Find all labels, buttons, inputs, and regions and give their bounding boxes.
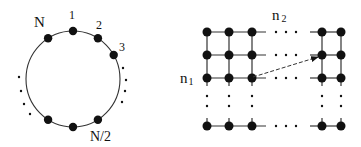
mesh-node (337, 28, 346, 37)
ellipsis-dot (125, 79, 127, 81)
ellipsis-dot (295, 125, 297, 127)
ellipsis-dot (23, 103, 25, 105)
ring-label-n: N (34, 14, 45, 30)
mesh-label-n2-base: n (272, 7, 280, 23)
ellipsis-dot (18, 76, 20, 78)
ellipsis-dot (295, 54, 297, 56)
ellipsis-dot (124, 90, 126, 92)
ring-label-n-half: N/2 (90, 129, 111, 144)
ring-circle (26, 31, 120, 127)
ring-label-1: 1 (69, 8, 75, 22)
mesh-node (248, 28, 257, 37)
ellipsis-dot (295, 31, 297, 33)
ellipsis-dot (206, 105, 208, 107)
ellipsis-dot (251, 105, 253, 107)
diagram-canvas: N 1 2 3 N/2 n2 n1 (0, 0, 361, 147)
ring-node (94, 34, 102, 42)
ellipsis-dot (285, 77, 287, 79)
mesh-label-n1: n1 (180, 70, 194, 87)
ring-node (69, 27, 77, 35)
mesh-node (318, 51, 327, 60)
mesh-node (248, 51, 257, 60)
ellipsis-dot (121, 101, 123, 103)
ring-node (44, 116, 52, 124)
mesh-label-n1-sub: 1 (189, 76, 194, 87)
mesh-label-n2: n2 (272, 7, 287, 24)
mesh-node (318, 74, 327, 83)
ring-node (94, 116, 102, 124)
ring-node (69, 123, 77, 131)
ring-label-2: 2 (96, 18, 102, 32)
mesh-node (203, 28, 212, 37)
ellipsis-dot (275, 77, 277, 79)
ellipsis-dot (340, 95, 342, 97)
mesh-node (225, 122, 234, 131)
ellipsis-dot (295, 77, 297, 79)
mesh-node (225, 28, 234, 37)
ellipsis-dot (340, 105, 342, 107)
ellipsis-dot (285, 125, 287, 127)
ring-node (110, 51, 118, 59)
mesh-node (337, 122, 346, 131)
ellipsis-dot (321, 105, 323, 107)
ellipsis-dot (29, 113, 31, 115)
mesh-node (203, 74, 212, 83)
mesh-node (318, 122, 327, 131)
mesh-node (337, 74, 346, 83)
ring-topology (18, 27, 127, 131)
mesh-node (203, 122, 212, 131)
dashed-arrow (253, 57, 318, 77)
ring-node (44, 34, 52, 42)
mesh-node (225, 51, 234, 60)
ellipsis-dot (285, 31, 287, 33)
mesh-label-n2-sub: 2 (282, 13, 287, 24)
ellipsis-dot (228, 95, 230, 97)
mesh-node (203, 51, 212, 60)
ellipsis-dot (122, 67, 124, 69)
ellipsis-dot (20, 90, 22, 92)
ellipsis-dot (285, 54, 287, 56)
mesh-node (337, 51, 346, 60)
ellipsis-dot (206, 95, 208, 97)
mesh-node (248, 122, 257, 131)
mesh-node (225, 74, 234, 83)
ellipsis-dot (275, 31, 277, 33)
ellipsis-dot (321, 95, 323, 97)
ellipsis-dot (228, 105, 230, 107)
mesh-node (318, 28, 327, 37)
mesh-node (248, 74, 257, 83)
mesh-topology (203, 28, 346, 131)
ellipsis-dot (251, 95, 253, 97)
ellipsis-dot (275, 125, 277, 127)
ring-label-3: 3 (119, 40, 125, 54)
mesh-label-n1-base: n (180, 70, 188, 86)
ellipsis-dot (275, 54, 277, 56)
